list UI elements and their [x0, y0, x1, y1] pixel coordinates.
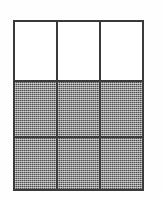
grid-cell-r1c3[interactable] [101, 22, 142, 80]
grid-cell-r2c2[interactable] [58, 82, 99, 136]
grid-cell-r3c1[interactable] [15, 138, 56, 189]
grid-cell-r1c2[interactable] [58, 22, 99, 80]
fraction-area-model-grid [13, 20, 144, 191]
figure-canvas [0, 0, 164, 198]
grid-cell-r2c3[interactable] [101, 82, 142, 136]
grid-cell-r3c3[interactable] [101, 138, 142, 189]
grid-cell-r1c1[interactable] [15, 22, 56, 80]
grid-cell-r2c1[interactable] [15, 82, 56, 136]
grid-cell-r3c2[interactable] [58, 138, 99, 189]
